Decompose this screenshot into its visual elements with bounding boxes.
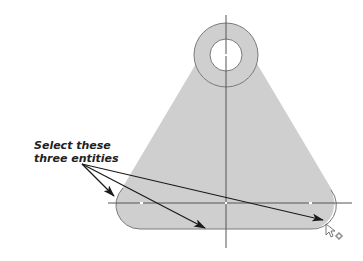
plus-icon xyxy=(336,233,342,239)
callout-label: Select these three entities xyxy=(34,139,119,165)
callout-line-1: Select these xyxy=(34,139,119,152)
cad-sketch-canvas xyxy=(0,0,363,261)
callout-line-2: three entities xyxy=(34,152,119,165)
select-cursor-icon xyxy=(326,224,342,239)
arrow-to-left-arc xyxy=(82,164,114,196)
